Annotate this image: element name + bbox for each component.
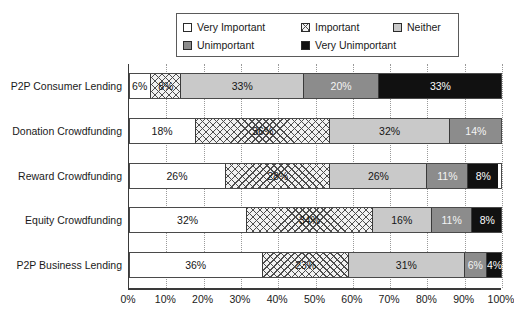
- bar-segment: 23%: [263, 252, 349, 278]
- bar-segment-value-label: 32%: [378, 125, 401, 137]
- legend-label-unimportant: Unimportant: [197, 39, 254, 51]
- x-tick-label: 30%: [229, 293, 250, 305]
- x-tick-label: 70%: [379, 293, 400, 305]
- bar-segment: 31%: [349, 252, 465, 278]
- bar-row: 18%36%32%14%: [129, 118, 502, 144]
- bar-segment: 6%: [465, 252, 487, 278]
- bar-segment-value-label: 32%: [176, 214, 199, 226]
- bar-segment: 8%: [468, 163, 498, 189]
- category-label-2: Donation Crowdfunding: [0, 125, 122, 137]
- x-tick-label: 40%: [267, 293, 288, 305]
- bar-row: 26%28%26%11%8%: [129, 163, 502, 189]
- bar-row: 36%23%31%6%4%: [129, 252, 502, 278]
- category-label-1: P2P Consumer Lending: [0, 80, 122, 92]
- bar-segment-value-label: 31%: [395, 259, 418, 271]
- plot-area: 6%8%33%20%33%18%36%32%14%26%28%26%11%8%3…: [128, 64, 501, 288]
- bar-segment-value-label: 28%: [266, 170, 289, 182]
- legend-swatch-important-icon: [301, 23, 310, 32]
- bar-segment-value-label: 16%: [390, 214, 413, 226]
- bar-row: 6%8%33%20%33%: [129, 73, 502, 99]
- chart-legend: Very Important Important Neither Unimpor…: [176, 13, 459, 57]
- bar-segment-value-label: 11%: [441, 214, 463, 226]
- legend-item-very-unimportant: Very Unimportant: [301, 39, 396, 51]
- bar-segment-value-label: 6%: [467, 259, 484, 271]
- legend-label-neither: Neither: [407, 21, 441, 33]
- bar-segment: 6%: [129, 73, 151, 99]
- bar-segment: 11%: [427, 163, 468, 189]
- bar-segment-value-label: 26%: [165, 170, 188, 182]
- category-label-4: Equity Crowdfunding: [0, 214, 122, 226]
- legend-item-very-important: Very Important: [183, 21, 301, 33]
- bar-segment-value-label: 26%: [367, 170, 390, 182]
- bar-segment-value-label: 18%: [151, 125, 174, 137]
- bar-segment-value-label: 8%: [475, 170, 492, 182]
- legend-swatch-neither-icon: [393, 23, 402, 32]
- bar-segment-value-label: 14%: [464, 125, 487, 137]
- bar-segment-value-label: 8%: [479, 214, 496, 226]
- x-tick-label: 90%: [453, 293, 474, 305]
- x-tick-label: 100%: [488, 293, 514, 305]
- x-tick-label: 60%: [341, 293, 362, 305]
- bar-segment-value-label: 20%: [330, 80, 353, 92]
- bar-segment: 32%: [129, 207, 247, 233]
- bar-segment: 16%: [373, 207, 432, 233]
- legend-swatch-very-important-icon: [183, 23, 192, 32]
- bar-segment: 18%: [129, 118, 196, 144]
- bar-segment: 33%: [379, 73, 502, 99]
- category-label-5: P2P Business Lending: [0, 259, 122, 271]
- x-tick-label: 50%: [304, 293, 325, 305]
- bar-segment: 8%: [151, 73, 181, 99]
- bar-segment: 26%: [330, 163, 427, 189]
- bar-segment: 11%: [432, 207, 473, 233]
- bar-segment-value-label: 36%: [251, 125, 274, 137]
- bar-segment-value-label: 8%: [157, 80, 174, 92]
- bar-segment: 32%: [330, 118, 449, 144]
- bar-segment: 26%: [129, 163, 226, 189]
- x-tick-label: 20%: [192, 293, 213, 305]
- bar-segment: 33%: [181, 73, 304, 99]
- bar-segment-value-label: 4%: [487, 259, 502, 271]
- bar-segment-value-label: 33%: [429, 80, 452, 92]
- bar-row: 32%34%16%11%8%: [129, 207, 502, 233]
- x-tick-label: 0%: [120, 293, 135, 305]
- legend-item-important: Important: [301, 21, 393, 33]
- bar-segment: 36%: [196, 118, 330, 144]
- bar-segment-value-label: 36%: [184, 259, 207, 271]
- legend-label-important: Important: [315, 21, 359, 33]
- category-label-3: Reward Crowdfunding: [0, 170, 122, 182]
- bar-segment-value-label: 6%: [131, 80, 148, 92]
- bar-segment-value-label: 34%: [298, 214, 321, 226]
- x-axis-line: [128, 288, 501, 290]
- legend-swatch-unimportant-icon: [183, 41, 192, 50]
- bar-segment: 36%: [129, 252, 263, 278]
- bar-segment: 20%: [304, 73, 379, 99]
- legend-swatch-very-unimportant-icon: [301, 41, 310, 50]
- bar-segment: 4%: [487, 252, 502, 278]
- legend-label-very-unimportant: Very Unimportant: [315, 39, 396, 51]
- legend-label-very-important: Very Important: [197, 21, 265, 33]
- x-tick-label: 10%: [155, 293, 176, 305]
- bar-segment: 28%: [226, 163, 330, 189]
- bar-segment: 14%: [450, 118, 502, 144]
- legend-item-neither: Neither: [393, 21, 441, 33]
- bar-segment-value-label: 23%: [294, 259, 317, 271]
- bar-segment-value-label: 33%: [231, 80, 254, 92]
- legend-item-unimportant: Unimportant: [183, 39, 301, 51]
- bar-segment: 8%: [472, 207, 502, 233]
- bar-segment: 34%: [247, 207, 373, 233]
- x-tick-label: 80%: [416, 293, 437, 305]
- gridline: [502, 64, 504, 288]
- bar-segment-value-label: 11%: [436, 170, 458, 182]
